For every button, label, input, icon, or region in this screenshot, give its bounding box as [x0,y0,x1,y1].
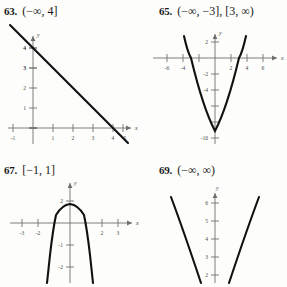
x-tick-label: -1 [11,135,16,141]
graph-67-svg: -3 -2 2 3 2 -1 -2 x y [0,177,143,285]
y-tick-label: -4 [203,87,208,93]
answer-interval-69: (−∞, ∞) [177,164,215,177]
answer-number-67: 67. [4,164,17,176]
x-axis-arrow [127,221,132,226]
y-axis-label: y [73,180,77,186]
answer-key-page: 63. (−∞, 4] -1 1 2 3 4 [0,0,287,287]
y-tick-label: 2 [60,198,63,204]
graph-69-svg: 6 5 4 3 2 y [143,177,287,285]
y-tick-label: 2 [23,85,26,91]
x-tick-label: 2 [230,65,233,71]
x-tick-label: 4 [246,65,249,71]
y-tick-label: 1 [23,105,26,111]
x-axis-label: x [135,220,139,226]
y-axis-label: y [215,185,219,191]
answer-header-65: 65. (−∞, −3], [3, ∞) [143,0,287,18]
y-axis-label: y [218,30,222,36]
y-tick-label: -2 [203,71,208,77]
x-tick-label: -4 [181,65,186,71]
answer-block-67: 67. [−1, 1] -3 -2 2 3 [0,160,143,287]
y-tick-label: -1 [58,242,63,248]
y-tick-label: 2 [205,39,208,45]
x-axis-label: x [280,55,284,61]
x-tick-label: 4 [112,135,115,141]
answer-number-63: 63. [4,5,17,17]
y-tick-label: 5 [205,218,208,224]
y-tick-label: 6 [205,200,208,206]
answer-interval-65: (−∞, −3], [3, ∞) [177,5,254,18]
x-axis-arrow [272,56,277,61]
answer-header-67: 67. [−1, 1] [0,160,143,177]
graph-69: 6 5 4 3 2 y [143,177,287,285]
graph-65: -6 -4 2 4 6 2 -2 -4 -10 x y [143,18,287,146]
y-tick-label: -2 [58,264,63,270]
y-axis-arrow [213,34,218,39]
y-axis-arrow [213,193,218,198]
x-tick-label: 1 [52,135,55,141]
y-axis-label: y [36,32,40,38]
y-tick-label: 4 [205,236,208,242]
graph-63: -1 1 2 3 4 5 1 2 3 4 3 4 [0,18,143,146]
x-tick-label: 3 [92,135,95,141]
parabola-left-branch [171,197,201,283]
x-tick-label: -3 [20,230,25,236]
answer-interval-67: [−1, 1] [22,164,55,177]
graph-65-svg: -6 -4 2 4 6 2 -2 -4 -10 x y [143,18,287,146]
x-tick-label: 2 [72,135,75,141]
y-axis-arrow [31,36,36,41]
x-tick-label: -6 [165,65,170,71]
answer-number-69: 69. [159,164,172,176]
x-axis-arrow [126,126,131,131]
answer-block-69: 69. (−∞, ∞) 6 5 4 3 2 y [143,160,287,287]
y-tick-label: 3 [205,254,208,260]
answer-interval-63: (−∞, 4] [22,5,57,18]
x-tick-label: -2 [36,230,41,236]
x-tick-label: 6 [262,65,265,71]
y-tick-label-4: 4 [23,45,26,51]
answer-header-63: 63. (−∞, 4] [0,0,143,18]
graph-67: -3 -2 2 3 2 -1 -2 x y [0,177,143,285]
y-tick-label: 2 [205,272,208,278]
parabola-right-branch [229,197,259,283]
line-curve [10,25,128,143]
y-tick-label-3: 3 [23,65,26,71]
x-axis-label: x [134,125,138,131]
answer-block-63: 63. (−∞, 4] -1 1 2 3 4 [0,0,143,150]
answer-block-65: 65. (−∞, −3], [3, ∞) -6 -4 2 4 [143,0,287,150]
answer-number-65: 65. [159,5,172,17]
x-tick-label: 2 [101,230,104,236]
y-tick-label: -10 [201,135,209,141]
x-tick-label: 3 [117,230,120,236]
y-axis-arrow [68,183,73,188]
answer-header-69: 69. (−∞, ∞) [143,160,287,177]
graph-63-svg: -1 1 2 3 4 5 1 2 3 4 3 4 [0,18,143,146]
